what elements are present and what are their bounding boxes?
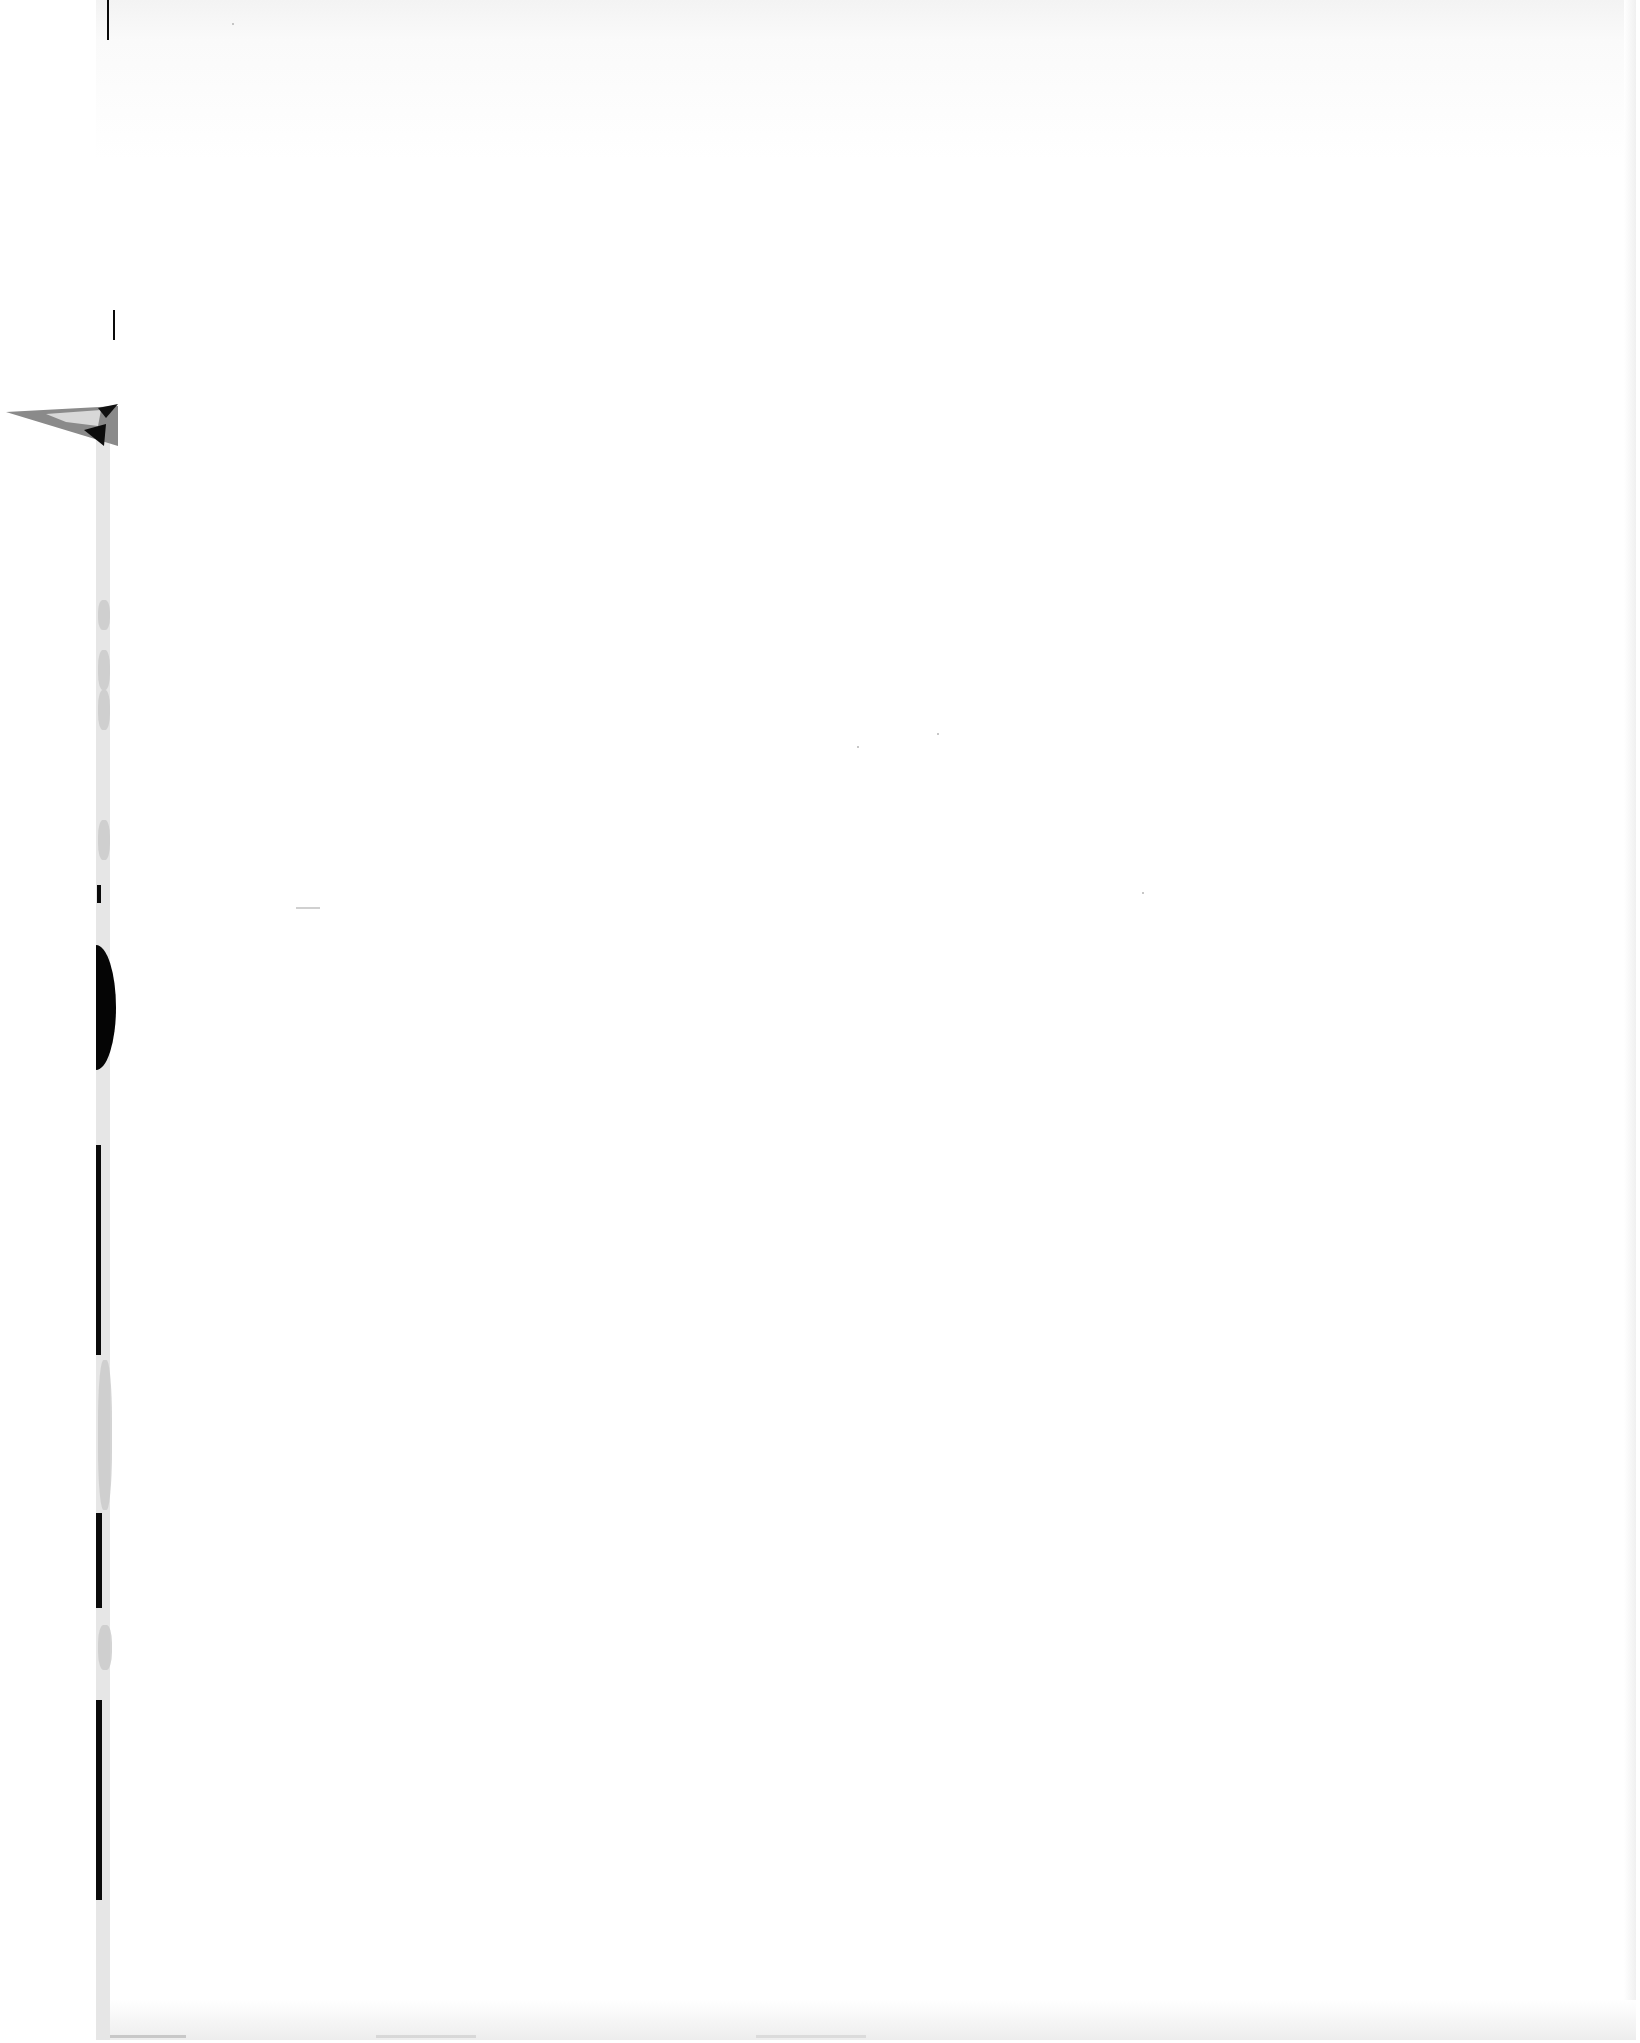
binding-blotch	[98, 650, 110, 690]
bottom-edge-line	[376, 2035, 476, 2038]
bottom-edge-line	[756, 2035, 866, 2038]
speck	[857, 746, 859, 748]
binding-blotch	[98, 820, 110, 860]
page-bottom-edge-shadow	[96, 2000, 1636, 2040]
speck	[1142, 892, 1144, 894]
binding-dark-strip	[96, 1145, 101, 1355]
binding-blotch	[98, 600, 110, 630]
binding-blotch	[98, 690, 110, 730]
binding-mark	[113, 310, 115, 340]
speck	[937, 733, 939, 735]
binding-mark	[107, 0, 109, 40]
page-text	[96, 0, 97, 1]
faint-mark	[296, 907, 320, 909]
speck	[232, 23, 234, 25]
blank-page	[96, 0, 1636, 2040]
binding-blotch	[98, 1360, 112, 1510]
page-right-edge-shadow	[1624, 0, 1636, 2040]
binding-mark	[97, 885, 101, 903]
binding-blotch	[98, 1625, 112, 1670]
binding-dark-strip	[96, 1513, 102, 1608]
binding-dark-strip	[96, 1700, 102, 1900]
page-corner-shadow-icon	[6, 404, 118, 446]
